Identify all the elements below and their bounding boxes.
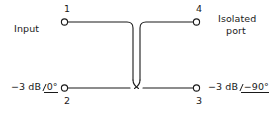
port-number-4: 4 (196, 3, 202, 14)
isolated-port-label-line1: Isolated (218, 13, 256, 24)
output-port-2-angle-group: 0° (44, 81, 58, 93)
output-port-3-angle-group: −90° (241, 81, 269, 93)
wire-top-right (140, 22, 193, 80)
port-terminal-2 (61, 85, 67, 91)
isolated-port-label-line2: port (226, 25, 246, 36)
port-number-1: 1 (64, 3, 70, 14)
port-terminal-3 (193, 85, 199, 91)
output-port-3-angle: −90° (244, 81, 269, 92)
port-terminal-1 (61, 19, 67, 25)
output-port-2-label: −3 dB 0° (11, 81, 58, 93)
port-number-3: 3 (196, 95, 202, 106)
port-number-2: 2 (64, 95, 70, 106)
output-port-3-label: −3 dB −90° (208, 81, 269, 93)
wire-top-left (68, 22, 133, 80)
input-label: Input (14, 23, 39, 34)
coupler-diagram: Input Isolated port −3 dB 0° −3 dB −90° … (0, 0, 276, 117)
output-port-2-angle: 0° (47, 81, 58, 92)
output-port-3-magnitude: −3 dB (208, 81, 238, 92)
port-terminal-4 (193, 19, 199, 25)
output-port-2-magnitude: −3 dB (11, 81, 41, 92)
